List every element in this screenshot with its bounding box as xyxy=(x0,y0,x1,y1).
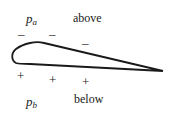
minus-sign-1: – xyxy=(18,27,25,40)
airfoil-pressure-diagram: pa above – – – + + + pb below xyxy=(0,0,173,119)
minus-sign-2: – xyxy=(49,27,56,40)
plus-sign-1: + xyxy=(17,69,24,82)
pressure-below-label: pb xyxy=(26,95,37,110)
pressure-above-label: pa xyxy=(26,12,37,27)
plus-sign-3: + xyxy=(82,75,89,88)
above-label: above xyxy=(73,12,102,24)
below-label: below xyxy=(74,93,103,105)
minus-sign-3: – xyxy=(82,36,89,49)
plus-sign-2: + xyxy=(49,73,56,86)
